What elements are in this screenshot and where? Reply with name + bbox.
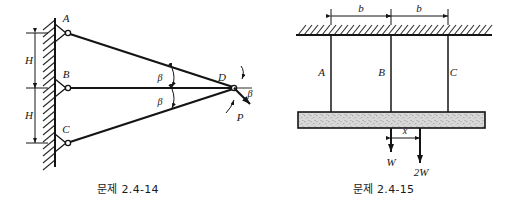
figure-2-4-14: A B C D H H β β β P 문제 2.4-14 bbox=[0, 0, 256, 207]
figure-caption-2-4-14: 문제 2.4-14 bbox=[0, 180, 256, 196]
dimension-label-h-lower: H bbox=[24, 109, 34, 121]
figure-caption-2-4-15: 문제 2.4-15 bbox=[256, 180, 511, 196]
load-label-2w: 2W bbox=[414, 166, 430, 178]
dimension-label-h-upper: H bbox=[24, 54, 34, 66]
figure-2-4-14-drawing: A B C D H H β β β P bbox=[0, 0, 256, 180]
rod-label-c: C bbox=[450, 66, 458, 78]
joint-label-b: B bbox=[63, 68, 70, 80]
angle-beta-load-arc-lower bbox=[226, 100, 234, 113]
load-label-w: W bbox=[386, 156, 396, 168]
pin-support-a bbox=[55, 24, 71, 42]
joint-label-d: D bbox=[217, 71, 226, 83]
pin-support-c bbox=[55, 134, 71, 152]
member-ad bbox=[70, 34, 233, 87]
angle-beta-lower-arc bbox=[172, 89, 174, 108]
figure-sheet: A B C D H H β β β P 문제 2.4-14 bbox=[0, 0, 511, 207]
angle-beta-load-arc-upper bbox=[241, 66, 243, 79]
rigid-bar bbox=[298, 112, 485, 128]
rod-label-a: A bbox=[317, 66, 325, 78]
ceiling-hatching bbox=[298, 25, 492, 35]
dimension-label-b-left: b bbox=[358, 2, 364, 14]
figure-2-4-15: A B C b b x W 2W 문제 2.4-15 bbox=[256, 0, 511, 207]
angle-label-beta-lower: β bbox=[157, 96, 163, 107]
pin-support-b bbox=[55, 79, 71, 97]
dimension-label-b-right: b bbox=[416, 2, 422, 14]
load-label-p: P bbox=[236, 111, 244, 123]
angle-beta-upper-arc bbox=[172, 68, 174, 87]
wall-hatching bbox=[43, 20, 55, 170]
joint-label-c: C bbox=[62, 123, 70, 135]
rod-label-b: B bbox=[378, 66, 385, 78]
member-cd bbox=[70, 89, 233, 142]
angle-label-beta-upper: β bbox=[157, 72, 163, 83]
joint-label-a: A bbox=[62, 12, 70, 24]
figure-2-4-15-drawing: A B C b b x W 2W bbox=[256, 0, 511, 180]
dimension-label-x: x bbox=[402, 125, 408, 136]
angle-label-beta-load: β bbox=[247, 88, 253, 99]
